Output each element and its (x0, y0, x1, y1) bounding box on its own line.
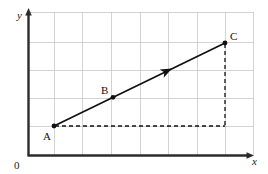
point-marker-a (52, 124, 57, 129)
x-axis-label: x (251, 155, 257, 167)
point-label-a: A (43, 130, 51, 142)
point-marker-b (111, 95, 116, 100)
point-label-c: C (230, 30, 237, 42)
point-label-b: B (101, 84, 108, 96)
y-axis-label: y (16, 9, 22, 21)
vector-diagram-figure: A B C y x 0 (0, 0, 268, 174)
point-marker-c (223, 41, 228, 46)
origin-label: 0 (14, 159, 20, 171)
vector-diagram-canvas: A B C y x 0 (0, 0, 268, 174)
